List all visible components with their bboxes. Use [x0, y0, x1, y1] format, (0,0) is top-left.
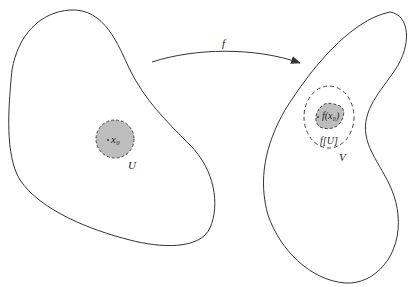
- map-label-f: f: [222, 38, 225, 49]
- label-f-u: f[U]: [320, 136, 338, 146]
- point-x0: [107, 139, 109, 141]
- label-f-x0: f(x₀): [322, 111, 339, 121]
- label-u: U: [128, 160, 136, 171]
- label-x0: x₀: [111, 134, 120, 145]
- label-v: V: [339, 152, 346, 163]
- map-arrow: [152, 51, 300, 63]
- point-f-x0: [317, 116, 319, 118]
- diagram-canvas: [0, 0, 413, 287]
